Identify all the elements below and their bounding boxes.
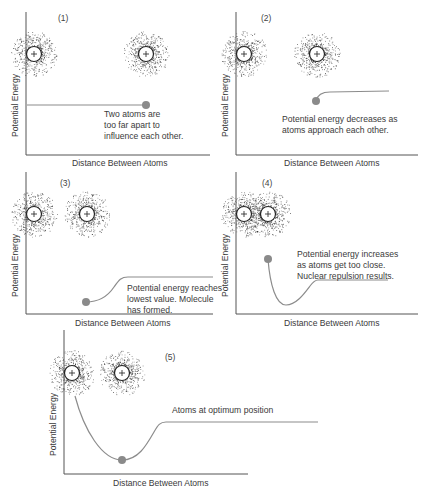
potential-energy-curve <box>316 91 389 101</box>
panel-caption: Atoms at optimum position <box>172 405 273 416</box>
panel-number: (2) <box>261 13 271 24</box>
x-axis-label: Distance Between Atoms <box>284 318 380 329</box>
panel-caption: Potential energy decreases as atoms appr… <box>282 114 398 136</box>
panel-caption: Two atoms are too far apart to influence… <box>104 109 183 142</box>
position-marker-dot <box>82 298 90 306</box>
panel-caption: Potential energy increases as atoms get … <box>297 249 398 282</box>
position-marker-dot <box>312 97 320 105</box>
panel-number: (1) <box>58 13 68 24</box>
position-marker-dot <box>264 255 272 263</box>
x-axis-label: Distance Between Atoms <box>72 158 168 169</box>
panel-number: (3) <box>60 178 70 189</box>
x-axis-label: Distance Between Atoms <box>284 158 380 169</box>
y-axis-label: Potential Energy <box>220 74 231 137</box>
x-axis-label: Distance Between Atoms <box>113 478 209 489</box>
panel-number: (5) <box>165 352 175 363</box>
y-axis-label: Potential Energy <box>48 393 59 456</box>
y-axis-label: Potential Energy <box>10 234 21 297</box>
position-marker-dot <box>118 456 126 464</box>
panel-caption: Potential energy reaches lowest value. M… <box>127 283 222 316</box>
y-axis-label: Potential Energy <box>220 234 231 297</box>
position-marker-dot <box>142 101 150 109</box>
y-axis-label: Potential Energy <box>10 74 21 137</box>
x-axis-label: Distance Between Atoms <box>75 318 171 329</box>
panel-number: (4) <box>262 178 272 189</box>
